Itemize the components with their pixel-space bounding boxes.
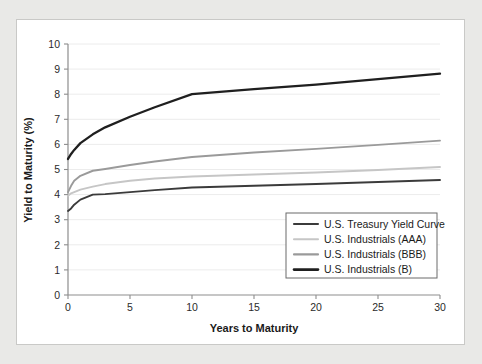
legend-label: U.S. Industrials (B) <box>324 263 412 275</box>
y-axis-title: Yield to Maturity (%) <box>22 117 34 223</box>
series-line <box>68 180 440 211</box>
legend-label: U.S. Treasury Yield Curve <box>324 218 445 230</box>
x-tick-label: 30 <box>434 301 446 313</box>
y-tick-label: 3 <box>54 213 60 225</box>
x-axis-title: Years to Maturity <box>210 322 300 334</box>
y-tick-label: 2 <box>54 239 60 251</box>
y-tick-label: 7 <box>54 113 60 125</box>
series-line <box>68 141 440 192</box>
y-tick-label: 4 <box>54 188 60 200</box>
y-tick-label: 9 <box>54 63 60 75</box>
y-tick-label: 5 <box>54 163 60 175</box>
yield-curve-chart: 012345678910 051015202530 Yield to Matur… <box>0 0 482 364</box>
x-tick-label: 10 <box>186 301 198 313</box>
legend-label: U.S. Industrials (BBB) <box>324 248 426 260</box>
x-tick-label: 0 <box>65 301 71 313</box>
y-tick-label: 10 <box>48 38 60 50</box>
y-tick-label: 6 <box>54 138 60 150</box>
series-line <box>68 74 440 159</box>
x-tick-label: 25 <box>372 301 384 313</box>
y-tick-label: 0 <box>54 289 60 301</box>
y-tick-label: 8 <box>54 88 60 100</box>
x-tick-label: 20 <box>310 301 322 313</box>
y-axis: 012345678910 <box>48 38 68 301</box>
x-tick-label: 15 <box>248 301 260 313</box>
y-tick-label: 1 <box>54 264 60 276</box>
x-tick-label: 5 <box>127 301 133 313</box>
legend: U.S. Treasury Yield CurveU.S. Industrial… <box>286 213 445 278</box>
legend-label: U.S. Industrials (AAA) <box>324 233 426 245</box>
x-axis: 051015202530 <box>65 295 446 313</box>
